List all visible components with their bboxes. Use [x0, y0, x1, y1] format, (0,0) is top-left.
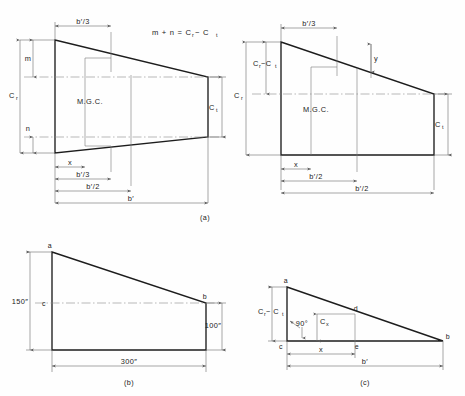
label-cr-minus-ct-c-sub2: t	[282, 311, 284, 317]
label-b-over-2-inner-right: b′/2	[309, 172, 322, 181]
point-a-b: a	[48, 242, 52, 249]
label-cr-minus-ct-c-mid: − C	[266, 307, 279, 316]
label-root-chord-right: C	[234, 91, 240, 100]
label-root-chord-right-sub: r	[241, 95, 243, 101]
label-tip-chord-right-sub: t	[442, 124, 444, 130]
label-b-over-2-outer-right: b′/2	[355, 184, 368, 193]
equation-sub-r: r	[192, 32, 194, 38]
planform-right-outline	[281, 42, 434, 155]
point-c-b: c	[42, 300, 46, 307]
figure-root: b′/3 m n C r C t M.G.C. x	[0, 0, 465, 396]
label-x-right: x	[294, 160, 298, 169]
label-90-degree: 90°	[296, 319, 309, 328]
label-root-chord-left-sub: r	[16, 95, 18, 101]
label-n-left: n	[26, 124, 31, 133]
label-root-chord-150: 150″	[12, 297, 29, 306]
equation-minus-c: − C	[195, 28, 209, 37]
label-b-prime-c: b′	[362, 357, 369, 366]
point-a-c: a	[284, 277, 288, 284]
panel-label-b: (b)	[124, 378, 134, 387]
panel-label-a: (a)	[200, 213, 210, 222]
panel-b-group: a b c 150″ 100″ 300″ (b)	[12, 242, 226, 387]
equation-m-plus-n: m + n = C	[152, 28, 192, 37]
planform-b-outline	[52, 252, 206, 350]
label-tip-chord-left-sub: t	[216, 107, 218, 113]
label-tip-chord-left: C	[209, 103, 215, 112]
label-b-over-3-bottom-left: b′/3	[76, 170, 89, 179]
label-tip-chord-100: 100″	[205, 321, 222, 330]
panel-a-right-group: b′/3 y C r −C t C r C t M.G.C.	[200, 19, 452, 222]
triangle-c-outline	[287, 287, 443, 341]
label-span-300: 300″	[121, 357, 138, 366]
label-cx-sub: x	[326, 321, 329, 327]
label-root-chord-left: C	[9, 91, 15, 100]
label-b-over-2-left: b′/2	[86, 182, 99, 191]
equation-sub-t: t	[216, 32, 218, 38]
point-b-c: b	[446, 333, 450, 340]
point-c-c: c	[279, 343, 283, 350]
point-b-b: b	[203, 293, 207, 300]
label-y-right: y	[374, 54, 378, 63]
label-b-prime-left: b′	[128, 194, 135, 203]
label-x-c: x	[319, 345, 323, 354]
label-cr-minus-ct-right-mid: −C	[261, 59, 272, 68]
label-mgc-right: M.G.C.	[303, 105, 329, 114]
label-m-left: m	[25, 54, 32, 63]
label-cr-minus-ct-right-sub2: t	[275, 63, 277, 69]
label-tip-chord-right: C	[435, 120, 441, 129]
point-e-c: e	[355, 343, 359, 350]
panel-label-c: (c)	[360, 378, 370, 387]
point-d-c: d	[354, 305, 358, 312]
panel-c-group: a b c d e C r − C t 90° C x	[258, 277, 450, 387]
panel-a-left-group: b′/3 m n C r C t M.G.C. x	[9, 17, 226, 203]
label-b-over-3-top-right: b′/3	[302, 19, 315, 28]
engineering-diagram-canvas: b′/3 m n C r C t M.G.C. x	[0, 0, 465, 396]
label-x-left: x	[68, 158, 72, 167]
label-mgc-left: M.G.C.	[77, 97, 103, 106]
label-b-over-3-top-left: b′/3	[76, 17, 89, 26]
